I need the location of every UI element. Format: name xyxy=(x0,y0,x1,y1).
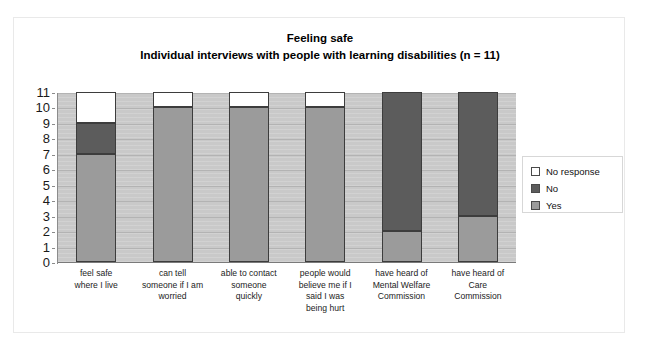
x-axis-label-line: quickly xyxy=(211,291,287,303)
y-tick-mark xyxy=(52,217,55,218)
gridline xyxy=(58,217,516,218)
y-axis: 01234567891011 xyxy=(14,93,55,263)
legend-label: No response xyxy=(546,166,600,177)
bar-segment-yes[interactable] xyxy=(229,107,269,262)
bar-segment-no[interactable] xyxy=(382,92,422,231)
y-tick-mark xyxy=(52,155,55,156)
gridline xyxy=(58,186,516,187)
y-tick-mark xyxy=(52,139,55,140)
x-axis-label-line: being hurt xyxy=(287,303,363,315)
y-tick-label: 9 xyxy=(43,117,50,130)
y-tick-mark xyxy=(52,201,55,202)
x-axis-label-line: have heard of xyxy=(440,268,516,280)
y-tick-label: 11 xyxy=(37,86,51,99)
x-axis-label-line: where I live xyxy=(58,280,134,292)
bar-group[interactable] xyxy=(229,92,269,262)
y-tick-mark xyxy=(52,263,55,264)
bar-segment-yes[interactable] xyxy=(305,107,345,262)
y-tick-mark xyxy=(52,93,55,94)
y-tick-mark xyxy=(52,170,55,171)
x-axis-label-line: Commission xyxy=(363,291,439,303)
x-axis-label: able to contactsomeonequickly xyxy=(211,268,287,303)
bar-segment-nores[interactable] xyxy=(229,92,269,107)
x-axis-label: feel safewhere I live xyxy=(58,268,134,291)
x-axis-label-line: Commission xyxy=(440,291,516,303)
chart-subtitle: Individual interviews with people with l… xyxy=(14,47,626,64)
y-tick-label: 2 xyxy=(43,225,50,238)
x-axis-label-line: have heard of xyxy=(363,268,439,280)
x-axis-labels: feel safewhere I livecan tellsomeone if … xyxy=(58,268,516,330)
chart-legend: No responseNoYes xyxy=(522,156,623,213)
gridline xyxy=(58,232,516,233)
legend-swatch-icon xyxy=(531,184,540,193)
gridline xyxy=(58,248,516,249)
legend-item[interactable]: Yes xyxy=(531,198,622,213)
y-tick-mark xyxy=(52,232,55,233)
y-tick-label: 6 xyxy=(43,163,50,176)
y-tick-label: 4 xyxy=(43,194,50,207)
bar-segment-yes[interactable] xyxy=(382,231,422,262)
x-axis-label-line: feel safe xyxy=(58,268,134,280)
x-axis-label-line: Care xyxy=(440,280,516,292)
bar-segment-no[interactable] xyxy=(76,123,116,154)
gridline xyxy=(58,155,516,156)
y-tick-mark xyxy=(52,186,55,187)
x-axis-label-line: worried xyxy=(134,291,210,303)
y-tick-label: 0 xyxy=(43,256,50,269)
x-axis-label-line: someone xyxy=(211,280,287,292)
y-tick-mark xyxy=(52,124,55,125)
y-tick-label: 7 xyxy=(43,148,50,161)
chart-title: Feeling safe xyxy=(14,30,626,47)
x-axis-label: can tellsomeone if I amworried xyxy=(134,268,210,303)
bar-group[interactable] xyxy=(382,92,422,262)
bar-segment-nores[interactable] xyxy=(153,92,193,107)
x-axis-label-line: can tell xyxy=(134,268,210,280)
x-axis-label-line: said I was xyxy=(287,291,363,303)
gridline xyxy=(58,93,516,94)
chart-title-block: Feeling safe Individual interviews with … xyxy=(14,30,626,64)
plot-background-texture xyxy=(58,93,516,262)
legend-item[interactable]: No response xyxy=(531,164,622,179)
y-tick-mark xyxy=(52,108,55,109)
y-tick-label: 3 xyxy=(43,210,50,223)
x-axis-label-line: believe me if I xyxy=(287,280,363,292)
y-tick-label: 1 xyxy=(43,241,50,254)
y-tick-mark xyxy=(52,248,55,249)
y-tick-label: 10 xyxy=(36,101,50,114)
x-axis-label-line: Mental Welfare xyxy=(363,280,439,292)
x-axis-label-line: able to contact xyxy=(211,268,287,280)
bar-segment-yes[interactable] xyxy=(458,216,498,262)
bar-segment-nores[interactable] xyxy=(76,92,116,123)
bar-group[interactable] xyxy=(305,92,345,262)
bar-segment-yes[interactable] xyxy=(153,107,193,262)
x-axis-label-line: someone if I am xyxy=(134,280,210,292)
gridline xyxy=(58,124,516,125)
legend-swatch-icon xyxy=(531,167,540,176)
gridline xyxy=(58,170,516,171)
bar-group[interactable] xyxy=(458,92,498,262)
y-tick-label: 5 xyxy=(43,179,50,192)
gridline xyxy=(58,108,516,109)
x-axis-label: have heard ofCareCommission xyxy=(440,268,516,303)
bar-group[interactable] xyxy=(76,92,116,262)
legend-swatch-icon xyxy=(531,201,540,210)
bar-segment-yes[interactable] xyxy=(76,154,116,262)
gridline xyxy=(58,201,516,202)
x-axis-label: people wouldbelieve me if Isaid I wasbei… xyxy=(287,268,363,314)
gridline xyxy=(58,139,516,140)
legend-label: No xyxy=(546,183,558,194)
bar-segment-nores[interactable] xyxy=(305,92,345,107)
bar-group[interactable] xyxy=(153,92,193,262)
plot-area xyxy=(58,93,516,263)
legend-label: Yes xyxy=(546,200,562,211)
legend-item[interactable]: No xyxy=(531,181,622,196)
y-tick-label: 8 xyxy=(43,132,50,145)
bar-segment-no[interactable] xyxy=(458,92,498,216)
x-axis-label: have heard ofMental WelfareCommission xyxy=(363,268,439,303)
chart-frame: Feeling safe Individual interviews with … xyxy=(13,17,625,333)
x-axis-label-line: people would xyxy=(287,268,363,280)
